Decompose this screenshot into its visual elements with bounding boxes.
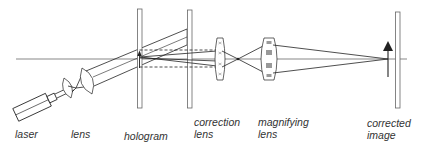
label-lens: lens (71, 128, 90, 140)
label-laser: laser (15, 128, 38, 140)
label-magnifying-lens: magnifying lens (258, 116, 309, 140)
lens-icon (80, 68, 93, 94)
label-hologram: hologram (124, 130, 168, 142)
label-line: correction (194, 116, 240, 128)
label-line: image (367, 129, 411, 141)
image-arrow-head (383, 41, 393, 51)
label-line: corrected (367, 117, 411, 129)
ray-to-image-bottom (273, 59, 388, 73)
second-plate (188, 10, 193, 108)
label-corrected-image: corrected image (367, 117, 411, 141)
label-line: lens (194, 128, 240, 140)
label-line: magnifying (258, 116, 309, 128)
image-plate (396, 12, 401, 108)
label-line: hologram (124, 130, 168, 142)
magnifying-lens-icon (261, 38, 277, 80)
label-correction-lens: correction lens (194, 116, 240, 140)
label-line: lens (71, 128, 90, 140)
ray-to-image-top (273, 45, 388, 59)
laser-icon (13, 90, 59, 121)
label-line: lens (258, 128, 309, 140)
label-line: laser (15, 128, 38, 140)
